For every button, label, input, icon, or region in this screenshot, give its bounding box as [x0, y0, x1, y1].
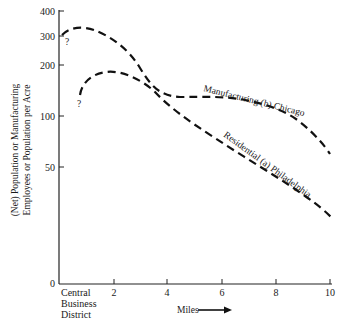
- x-origin-label: Central Business District: [61, 287, 97, 320]
- x-ticks: [114, 279, 330, 284]
- x-axis-title: Miles: [177, 305, 199, 315]
- y-tick-label: 100: [40, 111, 55, 122]
- x-tick-labels: 2 4 6 8 10: [112, 287, 336, 298]
- svg-text:(Net) Population or Manufactur: (Net) Population or Manufacturing: [10, 83, 21, 216]
- y-tick-label: 50: [45, 162, 55, 173]
- svg-text:Employees or Population per Ac: Employees or Population per Acre: [22, 85, 32, 216]
- svg-text:Central: Central: [61, 287, 91, 298]
- uncertain-start-marker: ?: [65, 37, 69, 47]
- x-tick-label: 6: [220, 287, 225, 298]
- chart: 400 300 200 100 50 0 2 4 6 8 10 Central …: [0, 0, 341, 322]
- y-tick-label: 300: [40, 31, 55, 42]
- y-tick-label: 400: [40, 6, 55, 17]
- x-tick-label: 4: [165, 287, 170, 298]
- x-tick-label: 2: [112, 287, 117, 298]
- series-label-manufacturing: Manufacturing (b) Chicago: [202, 83, 306, 119]
- series-label-residential: Residential (a) Philadelphia: [221, 130, 313, 201]
- series-manufacturing-chicago: [62, 28, 330, 154]
- y-tick-label: 200: [40, 60, 55, 71]
- svg-text:District: District: [61, 309, 91, 320]
- y-tick-labels: 400 300 200 100 50 0: [40, 6, 55, 289]
- x-tick-label: 10: [325, 287, 335, 298]
- x-tick-label: 8: [274, 287, 279, 298]
- arrow-right-icon: [198, 307, 232, 314]
- y-tick-label: 0: [50, 278, 55, 289]
- svg-text:Business: Business: [61, 298, 97, 309]
- y-axis-title: (Net) Population or Manufacturing Employ…: [10, 83, 32, 216]
- uncertain-start-marker: ?: [77, 99, 81, 109]
